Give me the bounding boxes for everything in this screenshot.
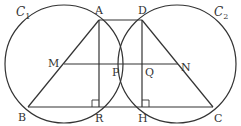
- label-r: R: [95, 112, 104, 125]
- right-angle-marks: [92, 100, 149, 107]
- label-m: M: [48, 57, 59, 70]
- label-b: B: [18, 111, 26, 124]
- label-d: D: [138, 4, 147, 17]
- label-a: A: [94, 4, 104, 17]
- label-q: Q: [145, 66, 154, 79]
- right-angle-mark-h: [142, 100, 149, 107]
- label-c2: C2: [214, 5, 228, 21]
- label-c1: C1: [16, 5, 30, 21]
- geometry-diagram: C1 C2 A D M N P Q B R H C: [0, 0, 241, 126]
- label-n: N: [181, 61, 191, 74]
- label-h: H: [138, 112, 148, 125]
- right-angle-mark-r: [92, 100, 99, 107]
- label-c: C: [214, 112, 222, 125]
- label-p: P: [112, 66, 120, 79]
